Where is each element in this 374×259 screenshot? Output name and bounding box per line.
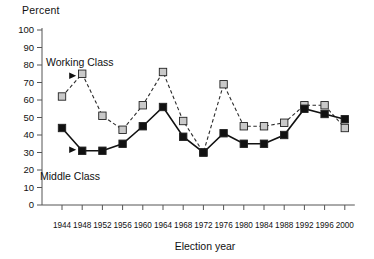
data-point-middle-class-1956[interactable] bbox=[119, 140, 126, 147]
x-axis-tick-label: 1968 bbox=[174, 221, 192, 230]
x-axis-tick-label: 2000 bbox=[336, 221, 354, 230]
series-label-working-class: Working Class bbox=[46, 56, 114, 68]
x-axis-tick-label: 1948 bbox=[73, 221, 91, 230]
data-point-middle-class-1960[interactable] bbox=[139, 123, 146, 130]
data-point-working-class-1960[interactable] bbox=[139, 102, 146, 109]
data-point-middle-class-1972[interactable] bbox=[200, 149, 207, 156]
x-axis-tick-label: 1976 bbox=[214, 221, 232, 230]
x-axis-tick-label: 1988 bbox=[275, 221, 293, 230]
annotation-arrow-middle-class bbox=[69, 147, 76, 153]
data-point-middle-class-1964[interactable] bbox=[159, 103, 166, 110]
chart-container: Percent 1009080706050403020100 Working C… bbox=[0, 0, 374, 259]
data-point-middle-class-1980[interactable] bbox=[240, 140, 247, 147]
data-point-middle-class-1944[interactable] bbox=[58, 124, 65, 131]
data-point-working-class-1988[interactable] bbox=[281, 119, 288, 126]
x-axis-tick-label: 1972 bbox=[194, 221, 212, 230]
x-axis-title: Election year bbox=[0, 240, 374, 252]
x-axis-tick-label: 1980 bbox=[235, 221, 253, 230]
x-axis-tick-label: 1944 bbox=[53, 221, 71, 230]
data-point-middle-class-1984[interactable] bbox=[260, 140, 267, 147]
data-point-middle-class-1988[interactable] bbox=[281, 131, 288, 138]
data-point-working-class-1956[interactable] bbox=[119, 126, 126, 133]
data-point-working-class-1996[interactable] bbox=[321, 102, 328, 109]
x-axis-tick-label: 1956 bbox=[113, 221, 131, 230]
data-point-working-class-1944[interactable] bbox=[58, 93, 65, 100]
x-axis-tick-label: 1952 bbox=[93, 221, 111, 230]
data-point-middle-class-2000[interactable] bbox=[341, 116, 348, 123]
data-point-working-class-1948[interactable] bbox=[79, 70, 86, 77]
x-axis-tick-label: 1964 bbox=[154, 221, 172, 230]
x-axis-tick-label: 1992 bbox=[295, 221, 313, 230]
series-label-middle-class: Middle Class bbox=[40, 170, 100, 182]
data-point-working-class-2000[interactable] bbox=[341, 124, 348, 131]
data-point-working-class-1968[interactable] bbox=[180, 117, 187, 124]
data-point-working-class-1984[interactable] bbox=[260, 123, 267, 130]
data-point-middle-class-1992[interactable] bbox=[301, 105, 308, 112]
x-axis-tick-label: 1984 bbox=[255, 221, 273, 230]
data-point-middle-class-1996[interactable] bbox=[321, 110, 328, 117]
data-point-working-class-1980[interactable] bbox=[240, 123, 247, 130]
data-point-working-class-1976[interactable] bbox=[220, 81, 227, 88]
data-point-middle-class-1976[interactable] bbox=[220, 130, 227, 137]
x-axis-tick-label: 1960 bbox=[134, 221, 152, 230]
data-point-working-class-1952[interactable] bbox=[99, 112, 106, 119]
data-point-middle-class-1968[interactable] bbox=[180, 133, 187, 140]
data-point-middle-class-1948[interactable] bbox=[79, 147, 86, 154]
annotation-arrow-working-class bbox=[69, 73, 76, 79]
x-axis-tick-label: 1996 bbox=[315, 221, 333, 230]
data-point-middle-class-1952[interactable] bbox=[99, 147, 106, 154]
data-point-working-class-1964[interactable] bbox=[159, 68, 166, 75]
